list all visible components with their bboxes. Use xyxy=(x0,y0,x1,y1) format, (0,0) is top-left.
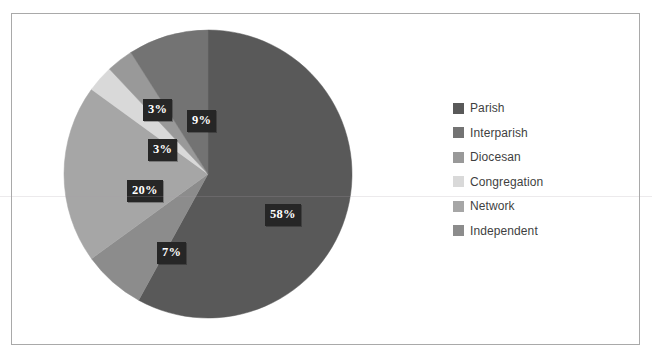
legend-swatch-icon xyxy=(453,127,464,138)
pie-chart xyxy=(63,29,353,319)
legend-swatch-icon xyxy=(453,152,464,163)
legend-item-label: Congregation xyxy=(470,175,543,189)
legend-item-label: Diocesan xyxy=(470,150,521,164)
pie-value-label: 3% xyxy=(148,139,177,161)
legend-item-interparish[interactable]: Interparish xyxy=(453,121,628,146)
legend-swatch-icon xyxy=(453,201,464,212)
legend-swatch-icon xyxy=(453,103,464,114)
chart-legend: ParishInterparishDiocesanCongregationNet… xyxy=(453,96,628,243)
clipped-top-text xyxy=(85,0,545,3)
legend-swatch-icon xyxy=(453,176,464,187)
legend-item-independent[interactable]: Independent xyxy=(453,219,628,244)
pie-value-label: 7% xyxy=(157,242,186,264)
legend-item-label: Interparish xyxy=(470,126,528,140)
plot-area: 58%7%20%3%3%9% xyxy=(12,14,442,346)
legend-item-label: Network xyxy=(470,199,515,213)
pie-slice-group xyxy=(64,30,352,318)
legend-list: ParishInterparishDiocesanCongregationNet… xyxy=(453,96,628,243)
pie-value-label: 58% xyxy=(265,204,301,226)
pie-svg xyxy=(63,29,353,319)
chart-frame: 58%7%20%3%3%9% ParishInterparishDiocesan… xyxy=(11,13,640,345)
legend-item-diocesan[interactable]: Diocesan xyxy=(453,145,628,170)
legend-item-network[interactable]: Network xyxy=(453,194,628,219)
legend-swatch-icon xyxy=(453,225,464,236)
pie-value-label: 3% xyxy=(143,99,172,121)
legend-item-label: Independent xyxy=(470,224,538,238)
pie-value-label: 20% xyxy=(127,180,163,202)
legend-item-label: Parish xyxy=(470,101,505,115)
legend-item-congregation[interactable]: Congregation xyxy=(453,170,628,195)
legend-item-parish[interactable]: Parish xyxy=(453,96,628,121)
pie-value-label: 9% xyxy=(187,110,216,132)
